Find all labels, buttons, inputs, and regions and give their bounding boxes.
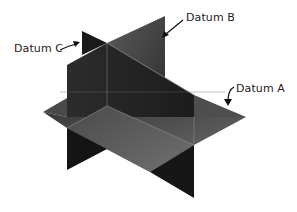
datum-b-label: Datum B (186, 12, 235, 23)
datum-c-label: Datum C (14, 43, 63, 54)
arrow-datum-b (162, 20, 183, 38)
arrow-datum-a (224, 87, 234, 106)
datum-a-label: Datum A (236, 83, 285, 94)
datum-planes-illustration (0, 0, 297, 212)
datum-b-plane-right (194, 95, 246, 117)
